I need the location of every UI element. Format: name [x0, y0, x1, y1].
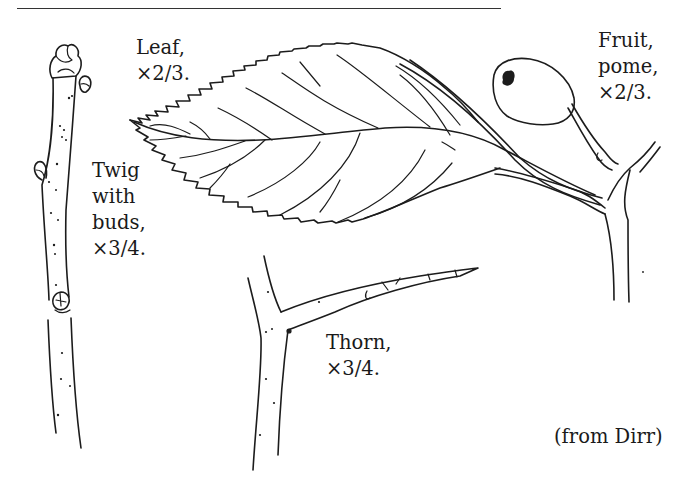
source-credit: (from Dirr) — [554, 424, 663, 450]
twig-label-scale: ×3/4. — [92, 236, 146, 262]
twig-label-line1: Twig — [92, 158, 146, 184]
thorn-label-scale: ×3/4. — [326, 356, 391, 382]
fruit-label-type: pome, — [598, 54, 658, 80]
leaf-label: Leaf,×2/3. — [136, 35, 190, 87]
thorn-label: Thorn,×3/4. — [326, 330, 391, 382]
fruit-label: Fruit,pome,×2/3. — [598, 28, 658, 106]
fruit-label-name: Fruit, — [598, 28, 658, 54]
fruit-label-scale: ×2/3. — [598, 80, 658, 106]
twig-label-line3: buds, — [92, 210, 146, 236]
leaf-drawing — [130, 43, 595, 223]
leaf-label-scale: ×2/3. — [136, 61, 190, 87]
leaf-label-name: Leaf, — [136, 35, 190, 61]
thorn-label-name: Thorn, — [326, 330, 391, 356]
twig-label: Twigwithbuds,×3/4. — [92, 158, 146, 262]
twig-drawing — [35, 45, 91, 448]
twig-label-line2: with — [92, 184, 146, 210]
